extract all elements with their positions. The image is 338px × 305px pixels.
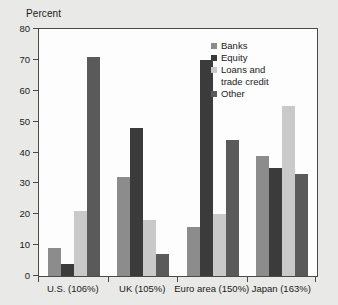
y-axis-tick-label: 0: [25, 270, 30, 282]
x-axis-tick-mark: [177, 277, 178, 282]
legend-item-continuation: trade credit: [211, 76, 315, 88]
bar: [226, 140, 239, 276]
x-axis-tick-mark: [247, 277, 248, 282]
bar-chart: Percent 01020304050607080 U.S. (106%)UK …: [0, 0, 338, 305]
legend-item-label-continued: trade credit: [211, 76, 269, 88]
y-axis-tick: 40: [0, 147, 38, 159]
legend-swatch-icon: [211, 43, 217, 49]
bar: [61, 264, 74, 276]
bar: [74, 211, 87, 276]
y-axis-tick-label: 70: [19, 54, 30, 66]
x-axis-category-label: Euro area (150%): [174, 283, 249, 295]
y-axis-tick-label: 10: [19, 239, 30, 251]
legend-item-label: Equity: [221, 52, 247, 64]
y-axis-tick: 80: [0, 23, 38, 35]
y-axis-tick: 50: [0, 116, 38, 128]
bar-group: [109, 29, 179, 276]
bar: [256, 156, 269, 276]
legend-swatch-icon: [211, 55, 217, 61]
bar-group: [39, 29, 109, 276]
x-axis-category-label: U.S. (106%): [47, 283, 99, 295]
bar: [269, 168, 282, 276]
y-axis-tick: 0: [0, 270, 38, 282]
legend-swatch-icon: [211, 91, 217, 97]
bar: [213, 214, 226, 276]
bar: [87, 57, 100, 276]
bar: [282, 106, 295, 276]
y-axis-title: Percent: [26, 8, 61, 20]
y-axis-tick-label: 80: [19, 23, 30, 35]
y-axis-tick-label: 40: [19, 147, 30, 159]
legend-item: Other: [211, 88, 315, 100]
legend-item: Banks: [211, 40, 315, 52]
legend-item: Equity: [211, 52, 315, 64]
x-axis-tick-mark: [108, 277, 109, 282]
x-axis-tick-mark: [38, 277, 39, 282]
y-axis-tick-label: 30: [19, 177, 30, 189]
legend: BanksEquityLoans andtrade creditOther: [211, 40, 315, 100]
y-axis-tick-label: 50: [19, 116, 30, 128]
legend-item-label: Other: [221, 88, 245, 100]
bar: [295, 174, 308, 276]
bar: [187, 227, 200, 276]
x-axis: U.S. (106%)UK (105%)Euro area (150%)Japa…: [38, 277, 318, 305]
y-axis: 01020304050607080: [0, 22, 38, 278]
x-axis-tick-mark: [315, 277, 316, 282]
x-axis-category-label: Japan (163%): [252, 283, 311, 295]
legend-item: Loans and: [211, 64, 315, 76]
bar: [117, 177, 130, 276]
x-axis-category-label: UK (105%): [119, 283, 165, 295]
y-axis-tick: 70: [0, 54, 38, 66]
legend-swatch-icon: [211, 67, 217, 73]
legend-item-label: Loans and: [221, 64, 265, 76]
y-axis-tick: 20: [0, 208, 38, 220]
y-axis-tick: 60: [0, 85, 38, 97]
legend-item-label: Banks: [221, 40, 247, 52]
bar: [156, 254, 169, 276]
y-axis-tick: 10: [0, 239, 38, 251]
y-axis-tick-label: 20: [19, 208, 30, 220]
y-axis-tick: 30: [0, 177, 38, 189]
bar: [48, 248, 61, 276]
y-axis-tick-label: 60: [19, 85, 30, 97]
bar: [130, 128, 143, 276]
bar: [143, 220, 156, 276]
